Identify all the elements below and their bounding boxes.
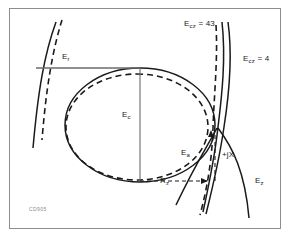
label-ecz-43-sub: cz: [190, 23, 196, 29]
ecz43-left-dashed-arc: [42, 20, 62, 140]
label-ecz-4: Ecz = 4: [243, 54, 269, 63]
ec-dashed-oval: [66, 74, 208, 180]
label-ea: Ea: [181, 148, 190, 157]
label-jx: +jX: [222, 150, 234, 159]
figure-code-caption: CD905: [29, 206, 47, 212]
label-ecz-4-base: E: [243, 54, 249, 63]
ecz4-solid-arc-outer: [206, 22, 230, 214]
label-ez-base: E: [255, 176, 261, 185]
label-jx-base: +jX: [222, 150, 234, 159]
label-ecz-43: Ecz = 43: [184, 19, 215, 28]
ez-arc: [218, 128, 249, 218]
figure-page: Ecz = 43 Ecz = 4 Er Ec Ea +jX Rz Ez CD90…: [0, 0, 292, 239]
label-er-base: E: [62, 52, 68, 61]
label-ea-sub: a: [187, 152, 191, 158]
label-ecz-43-base: E: [184, 19, 190, 28]
label-ec-sub: c: [128, 114, 131, 120]
label-ec: Ec: [122, 110, 131, 119]
ecz43-left-solid-arc: [33, 22, 56, 148]
label-rz-sub: z: [166, 180, 169, 186]
label-ecz-43-suffix: = 43: [196, 19, 215, 28]
label-ez: Ez: [255, 176, 264, 185]
diagram-canvas: [0, 0, 292, 239]
label-er: Er: [62, 52, 70, 61]
label-er-sub: r: [68, 56, 70, 62]
label-ecz-4-suffix: = 4: [255, 54, 269, 63]
label-rz: Rz: [160, 176, 169, 185]
label-ec-base: E: [122, 110, 128, 119]
label-ecz-4-sub: cz: [249, 58, 255, 64]
label-ez-sub: z: [261, 180, 264, 186]
label-ea-base: E: [181, 148, 187, 157]
